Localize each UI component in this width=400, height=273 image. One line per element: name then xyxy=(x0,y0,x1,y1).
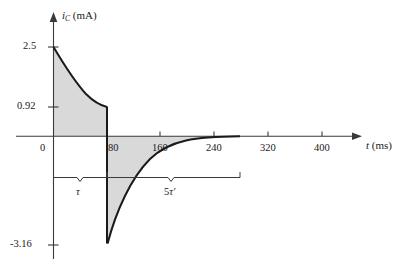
y-tick-label-origin: 0 xyxy=(40,143,45,154)
x-axis-title-symbol: t xyxy=(366,139,369,151)
y-tick-label-2-5: 2.5 xyxy=(23,41,36,52)
y-axis-title-unit: (mA) xyxy=(73,9,97,21)
x-tick-label-160: 160 xyxy=(152,143,168,154)
y-tick-label-0-92: 0.92 xyxy=(17,101,35,112)
five-tau-prime-symbol: τ′ xyxy=(169,186,175,197)
y-axis-title-subscript: C xyxy=(65,14,70,23)
x-tick-label-320: 320 xyxy=(260,143,276,154)
capacitor-current-chart xyxy=(0,0,400,273)
x-axis-title: t (ms) xyxy=(366,140,392,151)
x-tick-label-80: 80 xyxy=(108,143,119,154)
five-tau-prime-bracket-label: 5τ′ xyxy=(164,187,175,198)
tau-bracket-label: τ xyxy=(76,187,80,198)
x-axis-ticks xyxy=(107,132,322,137)
y-axis-arrowhead xyxy=(50,12,58,22)
y-tick-label-minus-3-16: -3.16 xyxy=(10,239,32,250)
x-tick-label-240: 240 xyxy=(206,143,222,154)
x-tick-label-400: 400 xyxy=(314,143,330,154)
x-axis-title-unit: (ms) xyxy=(372,139,392,151)
y-axis-title: iC (mA) xyxy=(62,10,97,23)
tau-bracket xyxy=(54,172,108,182)
x-axis-arrowhead xyxy=(352,132,362,140)
